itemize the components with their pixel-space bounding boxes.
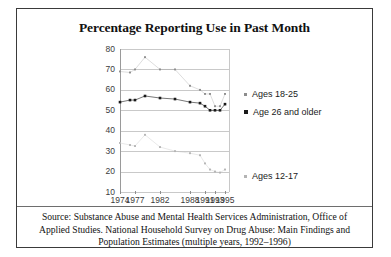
data-point-marker (174, 98, 177, 101)
data-point-marker (224, 93, 226, 95)
legend-marker-icon (244, 110, 248, 114)
x-tick-mark (190, 191, 191, 194)
data-point-marker (224, 169, 226, 171)
y-tick-label: 30 (93, 147, 115, 156)
data-point-marker (189, 85, 191, 87)
y-axis-labels: 8070605040302010 (91, 43, 115, 192)
data-point-marker (214, 171, 216, 173)
data-point-marker (209, 169, 211, 171)
x-tick-mark (120, 191, 121, 194)
data-point-marker (134, 99, 137, 102)
data-point-marker (159, 68, 161, 70)
legend-item-ages-18-25: Ages 18-25 (244, 89, 298, 99)
data-point-marker (224, 103, 227, 106)
legend-label: Ages 12-17 (252, 171, 298, 181)
data-point-marker (214, 109, 217, 112)
data-point-marker (129, 99, 132, 102)
series-line (120, 135, 225, 173)
data-point-marker (174, 150, 176, 152)
y-tick-label: 60 (93, 85, 115, 94)
data-point-marker (209, 93, 211, 95)
x-tick-mark (205, 191, 206, 194)
data-point-marker (219, 109, 222, 112)
data-point-marker (144, 134, 146, 136)
data-point-marker (209, 109, 212, 112)
data-point-marker (204, 162, 206, 164)
source-line-3: Population Estimates (multiple years, 19… (27, 236, 362, 249)
data-point-marker (119, 101, 122, 104)
data-point-marker (129, 144, 131, 146)
data-point-marker (199, 154, 201, 156)
legend-label: Ages 18-25 (252, 89, 298, 99)
source-line-1: Source: Substance Abuse and Mental Healt… (27, 211, 362, 224)
y-tick-label: 50 (93, 106, 115, 115)
source-divider (17, 206, 372, 207)
x-tick-mark (135, 191, 136, 194)
x-tick-label: 1977 (126, 195, 145, 205)
data-point-marker (144, 95, 147, 98)
legend-item-ages-12-17: Ages 12-17 (244, 171, 298, 181)
plot-wrapper: 8070605040302010 19741977198219881991199… (17, 43, 374, 203)
x-tick-label: 1982 (151, 195, 170, 205)
legend-marker-icon (244, 93, 247, 96)
data-point-marker (159, 146, 161, 148)
y-tick-label: 70 (93, 65, 115, 74)
data-point-marker (119, 71, 121, 73)
y-tick-label: 20 (93, 167, 115, 176)
data-point-marker (204, 105, 207, 108)
legend-marker-icon (244, 175, 247, 178)
data-point-marker (159, 97, 162, 100)
data-point-marker (134, 68, 136, 70)
data-point-marker (199, 102, 202, 105)
data-point-marker (129, 72, 131, 74)
chart-title: Percentage Reporting Use in Past Month (17, 20, 372, 36)
series-layer (120, 49, 230, 192)
x-tick-label: 1995 (216, 195, 235, 205)
figure-container: Percentage Reporting Use in Past Month 8… (16, 8, 373, 248)
legend-item-age-26-and-older: Age 26 and older (244, 107, 322, 117)
data-point-marker (214, 105, 216, 107)
source-line-2: Applied Studies. National Household Surv… (27, 224, 362, 237)
data-point-marker (219, 172, 221, 174)
data-point-marker (204, 93, 206, 95)
legend-label: Age 26 and older (253, 107, 322, 117)
data-point-marker (144, 56, 146, 58)
data-point-marker (199, 89, 201, 91)
data-point-marker (189, 152, 191, 154)
data-point-marker (174, 68, 176, 70)
y-tick-label: 40 (93, 126, 115, 135)
data-point-marker (219, 105, 221, 107)
x-tick-mark (225, 191, 226, 194)
y-tick-label: 80 (93, 45, 115, 54)
data-point-marker (189, 101, 192, 104)
source-note: Source: Substance Abuse and Mental Healt… (27, 211, 362, 249)
data-point-marker (134, 145, 136, 147)
x-tick-mark (215, 191, 216, 194)
x-tick-mark (160, 191, 161, 194)
series-line (120, 96, 225, 110)
data-point-marker (119, 142, 121, 144)
